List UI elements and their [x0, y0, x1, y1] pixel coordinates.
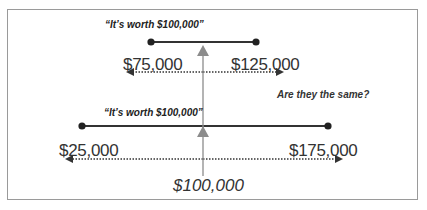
center-value: $100,000 [173, 176, 244, 196]
top-low-value: $75,000 [123, 55, 182, 75]
question-text: Are they the same? [277, 89, 369, 100]
bottom-quote: “It’s worth $100,000” [104, 107, 203, 118]
bottom-low-value: $25,000 [59, 141, 118, 161]
top-high-value: $125,000 [231, 55, 300, 75]
top-quote: “It’s worth $100,000” [105, 19, 204, 30]
top-range-line [147, 38, 259, 45]
bottom-high-value: $175,000 [289, 141, 358, 161]
bottom-range-line [78, 122, 331, 129]
